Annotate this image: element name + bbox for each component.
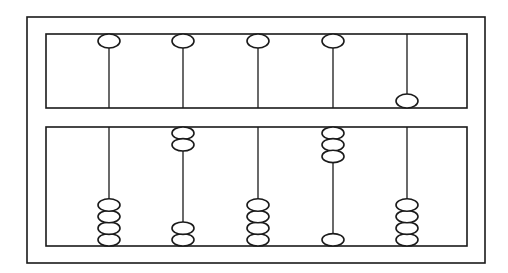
earth-bead	[247, 222, 269, 234]
abacus-diagram	[0, 0, 508, 273]
earth-bead	[396, 199, 418, 211]
earth-bead	[98, 234, 120, 246]
abacus-rod-5	[396, 34, 418, 246]
earth-bead	[98, 210, 120, 222]
abacus-rod-2	[172, 34, 194, 246]
earth-bead	[172, 234, 194, 246]
abacus-rods	[98, 34, 418, 246]
earth-bead	[172, 127, 194, 139]
abacus-rod-3	[247, 34, 269, 246]
earth-bead	[396, 210, 418, 222]
earth-bead	[322, 150, 344, 162]
heaven-bead	[322, 34, 344, 48]
earth-bead	[247, 199, 269, 211]
earth-bead	[172, 222, 194, 234]
earth-bead	[247, 210, 269, 222]
abacus-rod-4	[322, 34, 344, 246]
earth-bead	[396, 222, 418, 234]
heaven-bead	[98, 34, 120, 48]
earth-bead	[396, 234, 418, 246]
heaven-bead	[396, 94, 418, 108]
earth-bead	[322, 127, 344, 139]
earth-bead	[98, 199, 120, 211]
abacus-rod-1	[98, 34, 120, 246]
earth-bead	[172, 139, 194, 151]
earth-bead	[322, 234, 344, 246]
heaven-bead	[172, 34, 194, 48]
earth-bead	[98, 222, 120, 234]
earth-bead	[322, 139, 344, 151]
heaven-bead	[247, 34, 269, 48]
earth-bead	[247, 234, 269, 246]
